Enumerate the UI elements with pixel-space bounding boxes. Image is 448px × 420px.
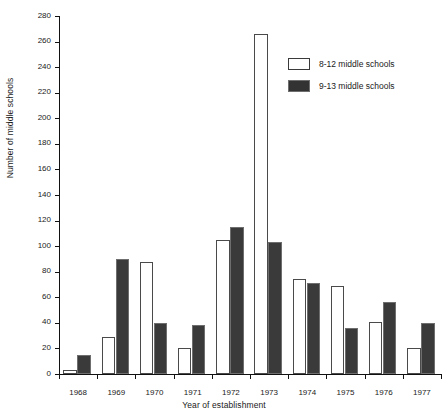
chart-legend: 8-12 middle schools9-13 middle schools (288, 53, 395, 97)
x-axis-tick (174, 374, 175, 379)
bar-1976-series2 (383, 302, 397, 374)
x-axis-title: Year of establishment (0, 400, 448, 410)
bar-1975-series1 (331, 286, 345, 374)
y-axis-tick: 40 (55, 323, 59, 324)
y-axis-tick-label: 220 (38, 87, 51, 96)
y-axis-tick-label: 0 (47, 369, 51, 378)
bar-1971-series2 (192, 325, 206, 374)
y-axis-tick-label: 280 (38, 11, 51, 20)
bar-1968-series1 (63, 370, 77, 374)
bar-1972-series2 (230, 227, 244, 374)
y-axis-tick-label: 60 (42, 292, 51, 301)
bar-1977-series1 (407, 348, 421, 374)
bar-1975-series2 (345, 328, 359, 374)
bar-1977-series2 (421, 323, 435, 374)
y-axis-tick-label: 80 (42, 266, 51, 275)
x-axis-category-label: 1976 (375, 388, 393, 397)
bar-1968-series2 (77, 355, 91, 374)
legend-label: 9-13 middle schools (319, 81, 395, 91)
y-axis-tick: 120 (55, 221, 59, 222)
y-axis-tick-label: 20 (42, 343, 51, 352)
x-axis-category-label: 1968 (69, 388, 87, 397)
legend-swatch-dark (288, 80, 310, 92)
y-axis-tick: 260 (55, 42, 59, 43)
bar-1969-series2 (116, 259, 130, 374)
x-axis-tick (365, 374, 366, 379)
legend-label: 8-12 middle schools (319, 59, 395, 69)
y-axis-line (59, 16, 60, 374)
bar-1972-series1 (216, 240, 230, 374)
bar-1969-series1 (102, 337, 116, 374)
bar-1971-series1 (178, 348, 192, 374)
y-axis-title: Number of middle schools (5, 48, 15, 208)
bar-1976-series1 (369, 322, 383, 374)
y-axis-tick: 240 (55, 67, 59, 68)
y-axis-tick-label: 100 (38, 241, 51, 250)
y-axis-tick-label: 180 (38, 138, 51, 147)
x-axis-tick (441, 374, 442, 379)
y-axis-tick-label: 200 (38, 113, 51, 122)
bar-1973-series2 (268, 242, 282, 374)
y-axis-tick: 60 (55, 297, 59, 298)
y-axis-tick-label: 40 (42, 317, 51, 326)
y-axis-tick-label: 260 (38, 36, 51, 45)
x-axis-category-label: 1972 (222, 388, 240, 397)
y-axis-tick: 20 (55, 348, 59, 349)
bar-1974-series1 (293, 279, 307, 374)
x-axis-tick (250, 374, 251, 379)
x-axis-category-label: 1974 (298, 388, 316, 397)
x-axis-category-label: 1969 (107, 388, 125, 397)
y-axis-tick-label: 140 (38, 190, 51, 199)
x-axis-category-label: 1973 (260, 388, 278, 397)
legend-item: 9-13 middle schools (288, 75, 395, 97)
x-axis-tick (135, 374, 136, 379)
y-axis-tick: 280 (55, 16, 59, 17)
x-axis-tick (97, 374, 98, 379)
x-axis-tick (212, 374, 213, 379)
y-axis-tick: 200 (55, 118, 59, 119)
legend-item: 8-12 middle schools (288, 53, 395, 75)
x-axis-tick (326, 374, 327, 379)
bar-1970-series2 (154, 323, 168, 374)
bar-1974-series2 (307, 283, 321, 374)
chart-figure: Number of middle schools Year of establi… (0, 0, 448, 420)
x-axis-category-label: 1971 (184, 388, 202, 397)
y-axis-tick-label: 160 (38, 164, 51, 173)
bar-1973-series1 (254, 34, 268, 374)
x-axis-category-label: 1975 (337, 388, 355, 397)
x-axis-category-label: 1977 (413, 388, 431, 397)
legend-swatch-light (288, 58, 310, 70)
x-axis-tick (59, 374, 60, 379)
y-axis-tick-label: 120 (38, 215, 51, 224)
bar-1970-series1 (140, 262, 154, 375)
y-axis-tick-label: 240 (38, 62, 51, 71)
y-axis-tick: 180 (55, 144, 59, 145)
y-axis-tick: 160 (55, 169, 59, 170)
y-axis-tick: 220 (55, 93, 59, 94)
y-axis-tick: 100 (55, 246, 59, 247)
y-axis-tick: 140 (55, 195, 59, 196)
y-axis-tick: 80 (55, 272, 59, 273)
x-axis-tick (288, 374, 289, 379)
x-axis-tick (403, 374, 404, 379)
x-axis-category-label: 1970 (146, 388, 164, 397)
